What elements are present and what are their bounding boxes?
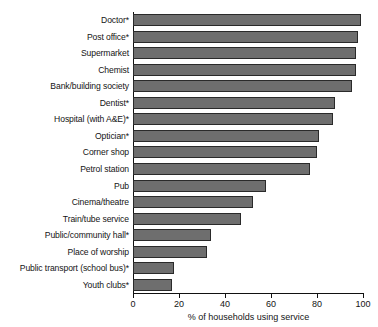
- category-label: Hospital (with A&E)*: [54, 114, 129, 124]
- x-tick-label: 60: [266, 299, 276, 310]
- bar: [133, 279, 172, 291]
- x-tick-mark: [271, 293, 272, 298]
- x-tick-mark: [363, 293, 364, 298]
- category-label: Bank/building society: [50, 81, 129, 91]
- x-tick-label: 100: [355, 299, 370, 310]
- category-label: Dentist*: [100, 98, 129, 108]
- bar: [133, 246, 207, 258]
- bar: [133, 196, 253, 208]
- bar: [133, 146, 317, 158]
- bar-row: Doctor*: [133, 12, 363, 29]
- x-tick-label: 20: [174, 299, 184, 310]
- category-label: Train/tube service: [63, 214, 129, 224]
- x-tick-label: 40: [220, 299, 230, 310]
- bar-row: Bank/building society: [133, 78, 363, 95]
- bar: [133, 14, 361, 26]
- bar-row: Pub: [133, 177, 363, 194]
- bar: [133, 163, 310, 175]
- bar-row: Train/tube service: [133, 210, 363, 227]
- x-tick-label: 80: [312, 299, 322, 310]
- bar: [133, 97, 335, 109]
- bar-row: Public transport (school bus)*: [133, 260, 363, 277]
- x-axis-line: [133, 293, 364, 294]
- bar-row: Dentist*: [133, 95, 363, 112]
- category-label: Public/community hall*: [45, 230, 129, 240]
- category-label: Cinema/theatre: [72, 197, 129, 207]
- bar-row: Cinema/theatre: [133, 194, 363, 211]
- bar-row: Optician*: [133, 128, 363, 145]
- bar: [133, 64, 356, 76]
- bar: [133, 113, 333, 125]
- category-label: Supermarket: [81, 48, 129, 58]
- bar: [133, 31, 358, 43]
- bar: [133, 80, 352, 92]
- bar-row: Public/community hall*: [133, 227, 363, 244]
- bar-chart: Doctor*Post office*SupermarketChemistBan…: [0, 0, 378, 327]
- bar: [133, 262, 174, 274]
- bar: [133, 47, 356, 59]
- x-axis-title: % of households using service: [133, 312, 364, 323]
- bar-row: Petrol station: [133, 161, 363, 178]
- category-label: Petrol station: [80, 164, 129, 174]
- category-label: Youth clubs*: [83, 280, 129, 290]
- category-label: Doctor*: [101, 15, 129, 25]
- bar-row: Chemist: [133, 62, 363, 79]
- x-tick-mark: [317, 293, 318, 298]
- x-tick-mark: [225, 293, 226, 298]
- bar: [133, 229, 211, 241]
- category-label: Post office*: [87, 32, 129, 42]
- category-label: Pub: [114, 181, 129, 191]
- x-tick-mark: [179, 293, 180, 298]
- x-tick-label: 0: [130, 299, 135, 310]
- category-label: Chemist: [98, 65, 129, 75]
- bar-row: Hospital (with A&E)*: [133, 111, 363, 128]
- category-label: Optician*: [95, 131, 129, 141]
- bar-row: Corner shop: [133, 144, 363, 161]
- bar: [133, 180, 266, 192]
- bar-row: Place of worship: [133, 243, 363, 260]
- category-label: Corner shop: [83, 147, 129, 157]
- x-tick-mark: [133, 293, 134, 298]
- bar-row: Post office*: [133, 29, 363, 46]
- bar: [133, 213, 241, 225]
- bar: [133, 130, 319, 142]
- category-label: Public transport (school bus)*: [20, 263, 129, 273]
- category-label: Place of worship: [68, 247, 129, 257]
- bar-row: Youth clubs*: [133, 276, 363, 293]
- bar-row: Supermarket: [133, 45, 363, 62]
